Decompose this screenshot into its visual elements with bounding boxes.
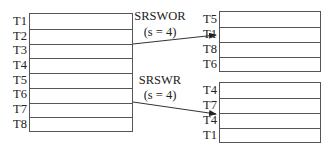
srswr-sample-label: T4 — [193, 113, 217, 127]
srswr-sample-label: T4 — [193, 83, 217, 97]
srswr-sample-label: T7 — [193, 98, 217, 112]
srswor-sample-label: T5 — [193, 12, 217, 26]
srswor-sample-label: T1 — [193, 27, 217, 41]
srswr-row — [220, 83, 320, 98]
srswor-row — [220, 27, 320, 42]
srswr-box — [219, 82, 321, 143]
srswr-sample-label: T1 — [193, 128, 217, 142]
srswor-row — [220, 12, 320, 27]
srswr-row — [220, 98, 320, 113]
srswor-box — [219, 11, 321, 72]
srswor-sample-label: T6 — [193, 57, 217, 71]
srswr-row — [220, 113, 320, 128]
srswr-row — [220, 128, 320, 143]
srswor-sample-label: T8 — [193, 42, 217, 56]
srswor-row — [220, 57, 320, 72]
srswor-row — [220, 42, 320, 57]
